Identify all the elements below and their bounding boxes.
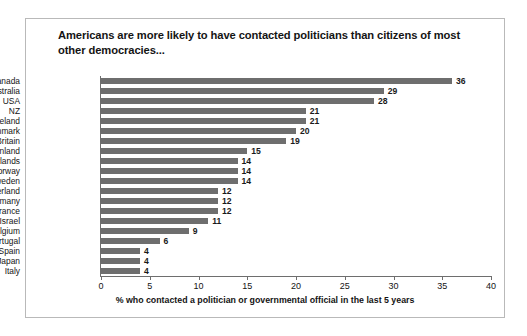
bar-row: 9: [101, 226, 491, 236]
category-label: USA: [0, 96, 20, 106]
category-label: Ireland: [0, 116, 20, 126]
bar: [101, 88, 384, 94]
bar: [101, 128, 296, 134]
category-label: Netherlands: [0, 156, 20, 166]
category-label: Canada: [0, 76, 20, 86]
bar: [101, 148, 247, 154]
category-label: France: [0, 206, 20, 216]
bar: [101, 168, 238, 174]
x-axis-tick-label: 40: [476, 281, 506, 291]
category-label: Israel: [0, 216, 20, 226]
bar-row: 14: [101, 176, 491, 186]
category-label: Denmark: [0, 126, 20, 136]
bar-row: 12: [101, 206, 491, 216]
category-label: Britain: [0, 136, 20, 146]
category-label: Italy: [0, 266, 20, 276]
bar: [101, 158, 238, 164]
x-axis-tick-label: 0: [86, 281, 116, 291]
bar-value-label: 14: [242, 176, 252, 186]
chart-frame: Americans are more likely to have contac…: [25, 18, 505, 318]
x-axis-tick-label: 25: [330, 281, 360, 291]
bar: [101, 98, 374, 104]
plot-area: 36292821212019151414141212121196444: [101, 76, 491, 276]
category-label: Australia: [0, 86, 20, 96]
category-label: Spain: [0, 246, 20, 256]
category-label: Germany: [0, 196, 20, 206]
bar-value-label: 4: [144, 246, 149, 256]
bar: [101, 268, 140, 274]
x-axis-tick-label: 30: [379, 281, 409, 291]
bar-row: 28: [101, 96, 491, 106]
bar-value-label: 20: [300, 126, 310, 136]
bar-row: 15: [101, 146, 491, 156]
bar-value-label: 12: [222, 196, 232, 206]
bar-value-label: 9: [193, 226, 198, 236]
bar-row: 4: [101, 266, 491, 276]
bar-row: 14: [101, 166, 491, 176]
bar: [101, 258, 140, 264]
bar-row: 6: [101, 236, 491, 246]
category-axis-labels: CanadaAustraliaUSANZIrelandDenmarkBritai…: [0, 76, 20, 276]
bar: [101, 108, 306, 114]
bar: [101, 138, 286, 144]
bar: [101, 248, 140, 254]
bar-row: 14: [101, 156, 491, 166]
x-axis-tick: [101, 276, 102, 280]
x-axis-tick: [247, 276, 248, 280]
bar-row: 21: [101, 106, 491, 116]
category-label: Belgium: [0, 226, 20, 236]
x-axis-tick: [150, 276, 151, 280]
bar-row: 4: [101, 256, 491, 266]
x-axis-tick: [296, 276, 297, 280]
x-axis-tick: [442, 276, 443, 280]
bar-value-label: 14: [242, 166, 252, 176]
x-axis-tick-label: 5: [135, 281, 165, 291]
bar-row: 20: [101, 126, 491, 136]
category-label: Sweden: [0, 176, 20, 186]
bar-value-label: 28: [378, 96, 388, 106]
bar-value-label: 15: [251, 146, 261, 156]
bar-row: 12: [101, 186, 491, 196]
bar-row: 36: [101, 76, 491, 86]
chart-title: Americans are more likely to have contac…: [58, 28, 488, 58]
bar-value-label: 12: [222, 206, 232, 216]
bar-value-label: 36: [456, 76, 466, 86]
bar-value-label: 29: [388, 86, 398, 96]
category-label: Japan: [0, 256, 20, 266]
category-label: Switzerland: [0, 186, 20, 196]
bar-row: 11: [101, 216, 491, 226]
bar-row: 4: [101, 246, 491, 256]
bar-value-label: 21: [310, 116, 320, 126]
bar-value-label: 14: [242, 156, 252, 166]
x-axis-tick-label: 35: [427, 281, 457, 291]
bar: [101, 198, 218, 204]
bar-row: 21: [101, 116, 491, 126]
bar-value-label: 4: [144, 256, 149, 266]
bar-row: 29: [101, 86, 491, 96]
category-label: Norway: [0, 166, 20, 176]
bar-value-label: 19: [290, 136, 300, 146]
bar-value-label: 6: [164, 236, 169, 246]
category-label: Finland: [0, 146, 20, 156]
x-axis-tick: [199, 276, 200, 280]
bar: [101, 218, 208, 224]
bar: [101, 228, 189, 234]
category-label: NZ: [0, 106, 20, 116]
x-axis-title: % who contacted a politician or governme…: [26, 295, 504, 305]
x-axis-tick: [345, 276, 346, 280]
x-axis-tick-label: 20: [281, 281, 311, 291]
x-axis-tick: [491, 276, 492, 280]
x-axis-tick-label: 10: [184, 281, 214, 291]
bar-value-label: 4: [144, 266, 149, 276]
bar: [101, 78, 452, 84]
bar: [101, 118, 306, 124]
bar: [101, 208, 218, 214]
x-axis-tick-label: 15: [232, 281, 262, 291]
x-axis-tick: [394, 276, 395, 280]
bar: [101, 188, 218, 194]
bar-row: 19: [101, 136, 491, 146]
bar-value-label: 11: [212, 216, 221, 226]
bar-value-label: 21: [310, 106, 320, 116]
bar-row: 12: [101, 196, 491, 206]
category-label: Portugal: [0, 236, 20, 246]
